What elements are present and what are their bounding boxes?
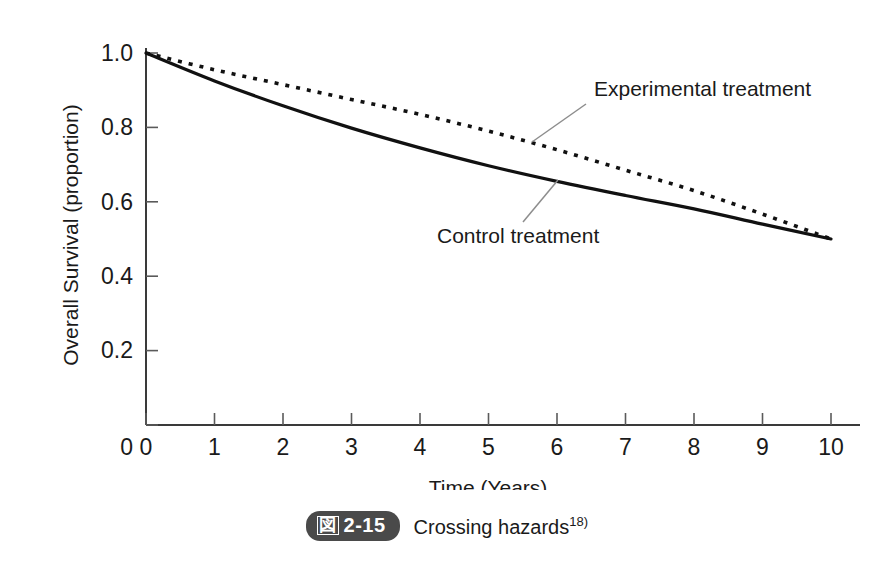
caption-main: Crossing hazards: [414, 515, 570, 537]
figure-root: Overall Survival (proportion) 1.0 0.8 0.…: [0, 0, 894, 576]
figure-caption-text: Crossing hazards18): [414, 514, 588, 539]
figure-caption-row: 図2-15 Crossing hazards18): [0, 496, 894, 556]
figure-number-badge: 図2-15: [306, 511, 400, 541]
figure-number: 2-15: [344, 514, 386, 537]
x-tick-marks: [146, 413, 831, 425]
x-tick-label: 2: [277, 434, 290, 460]
x-axis-title: Time (Years): [429, 476, 548, 490]
x-tick-label: 3: [345, 434, 358, 460]
x-tick-label: 10: [818, 434, 844, 460]
x-tick-label: 8: [688, 434, 701, 460]
caption-reference-marker: 18): [569, 514, 588, 529]
y-tick-label: 0.8: [101, 114, 133, 140]
experimental-leader-line: [532, 104, 586, 142]
y-tick-label: 1.0: [101, 40, 133, 66]
x-tick-label: 0: [140, 434, 153, 460]
x-tick-label: 5: [482, 434, 495, 460]
x-tick-label: 6: [551, 434, 564, 460]
annotation-experimental-treatment: Experimental treatment: [594, 77, 811, 100]
survival-chart-svg: Overall Survival (proportion) 1.0 0.8 0.…: [0, 0, 894, 490]
y-tick-label: 0.6: [101, 189, 133, 215]
y-tick-labels: 1.0 0.8 0.6 0.4 0.2 0: [101, 40, 133, 460]
y-tick-label: 0.4: [101, 263, 133, 289]
x-tick-label: 4: [414, 434, 427, 460]
annotation-control-treatment: Control treatment: [437, 224, 599, 247]
x-tick-label: 1: [208, 434, 221, 460]
x-tick-label: 7: [619, 434, 632, 460]
y-tick-label: 0.2: [101, 337, 133, 363]
figure-kanji-glyph: 図: [317, 516, 339, 535]
chart-area: Overall Survival (proportion) 1.0 0.8 0.…: [0, 0, 894, 490]
y-tick-marks: [146, 53, 158, 425]
y-axis-title: Overall Survival (proportion): [59, 104, 82, 365]
y-tick-label: 0: [120, 434, 133, 460]
x-tick-label: 9: [756, 434, 769, 460]
control-leader-line: [523, 180, 558, 222]
x-tick-labels: 0 1 2 3 4 5 6 7 8 9 10: [140, 434, 844, 460]
